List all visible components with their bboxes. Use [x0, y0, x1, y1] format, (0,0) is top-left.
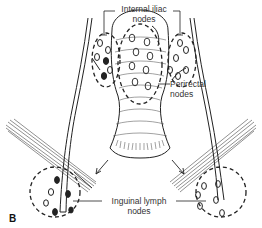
panel-label: B [9, 213, 16, 224]
left-inguinal-ligament [6, 119, 96, 192]
inguinal-label-line2: nodes [104, 207, 174, 217]
perirectal-label-line2: nodes [170, 90, 206, 100]
internal-iliac-label-line2: nodes [118, 15, 170, 25]
left-internal-iliac-node-group [92, 33, 120, 87]
lymph-drainage-diagram [0, 0, 262, 228]
left-inguinal-node-group [30, 167, 80, 217]
inguinal-label: Inguinal lymph nodes [104, 197, 174, 216]
perirectal-node-group [118, 24, 162, 104]
internal-iliac-label: Internal iliac nodes [118, 5, 170, 24]
perirectal-label: Perirectal nodes [170, 80, 206, 99]
right-vessel [172, 18, 224, 200]
drainage-arrows [96, 160, 184, 174]
right-inguinal-ligament [170, 119, 256, 192]
